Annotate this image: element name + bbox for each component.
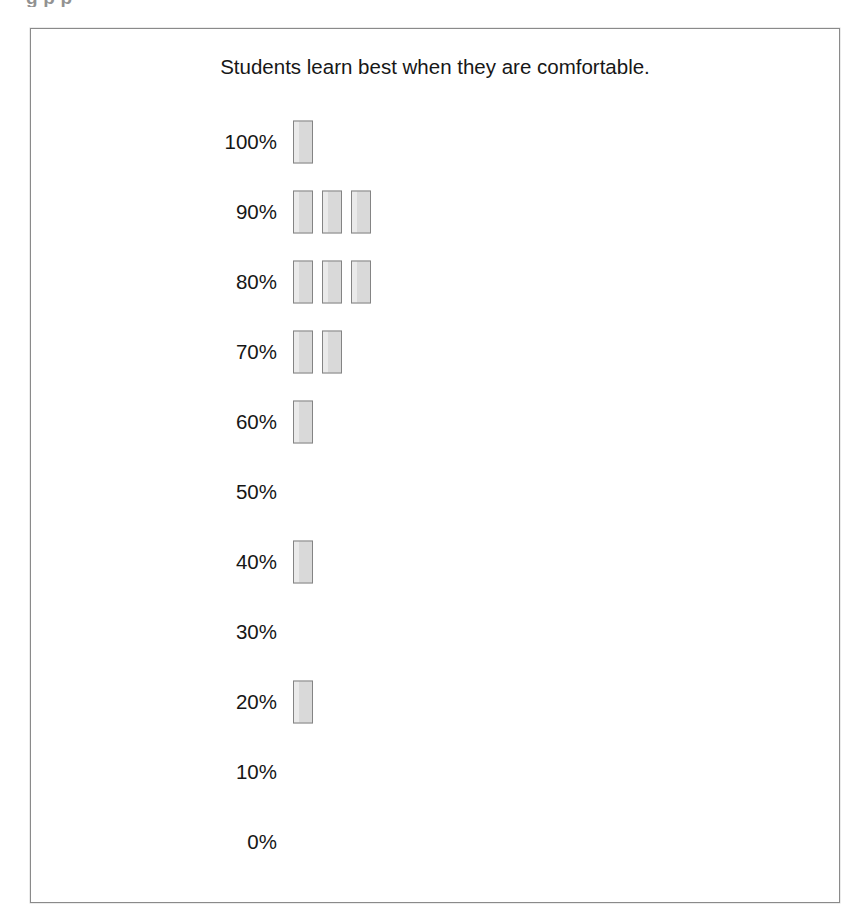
chart-row: 80% (31, 247, 841, 317)
axis-tick-label: 10% (181, 762, 277, 783)
chart-row: 40% (31, 527, 841, 597)
bar-group (293, 121, 313, 164)
axis-tick-label: 0% (181, 832, 277, 853)
axis-tick-label: 30% (181, 622, 277, 643)
chart-row: 30% (31, 597, 841, 667)
chart-row: 70% (31, 317, 841, 387)
axis-tick-label: 50% (181, 482, 277, 503)
bar-group (293, 261, 371, 304)
bar-group (293, 401, 313, 444)
chart-plot-area: 100%90%80%70%60%50%40%30%20%10%0% (31, 107, 841, 877)
bar (322, 261, 342, 304)
bar-group (293, 331, 342, 374)
bar (293, 331, 313, 374)
chart-row: 10% (31, 737, 841, 807)
chart-row: 20% (31, 667, 841, 737)
axis-tick-label: 20% (181, 692, 277, 713)
bar (293, 191, 313, 234)
bar (293, 121, 313, 164)
axis-tick-label: 60% (181, 412, 277, 433)
bar (322, 191, 342, 234)
bar (293, 261, 313, 304)
axis-tick-label: 40% (181, 552, 277, 573)
chart-row: 50% (31, 457, 841, 527)
clipped-page-heading: g p p (26, 0, 646, 7)
bar-group (293, 541, 313, 584)
chart-row: 0% (31, 807, 841, 877)
axis-tick-label: 90% (181, 202, 277, 223)
bar-group (293, 191, 371, 234)
bar (293, 401, 313, 444)
axis-tick-label: 80% (181, 272, 277, 293)
chart-row: 100% (31, 107, 841, 177)
chart-row: 90% (31, 177, 841, 247)
bar (322, 331, 342, 374)
bar-group (293, 681, 313, 724)
chart-row: 60% (31, 387, 841, 457)
bar (293, 541, 313, 584)
chart-title: Students learn best when they are comfor… (31, 55, 839, 79)
figure-frame: Students learn best when they are comfor… (30, 28, 840, 903)
bar (293, 681, 313, 724)
bar (351, 191, 371, 234)
axis-tick-label: 70% (181, 342, 277, 363)
bar (351, 261, 371, 304)
axis-tick-label: 100% (181, 132, 277, 153)
